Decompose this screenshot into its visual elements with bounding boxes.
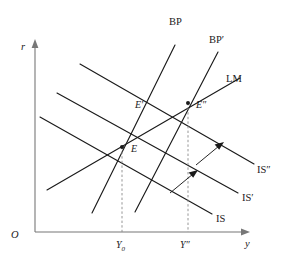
is-lm-bp-diagram: BP BP′ LM IS IS′ IS″ E E′ E″ r y O Y0 Y″ (0, 0, 297, 265)
drop-lines-group (122, 103, 188, 232)
label-is-prime: IS′ (242, 192, 254, 203)
label-r-axis: r (21, 41, 26, 52)
curve-labels-group: BP BP′ LM IS IS′ IS″ (169, 16, 271, 224)
equilibrium-dot-e[interactable] (120, 145, 124, 149)
equilibrium-labels-group: E E′ E″ (130, 99, 207, 154)
label-e-prime: E′ (134, 99, 144, 110)
label-is: IS (216, 213, 225, 224)
y-axis-arrowhead (32, 39, 39, 48)
tick-y0-sub: 0 (122, 245, 126, 253)
label-bp-prime: BP′ (209, 34, 224, 45)
x-tick-labels-group: Y0 Y″ (116, 239, 191, 253)
lm-curve[interactable] (47, 78, 240, 190)
tick-label-y-double-prime: Y″ (180, 239, 191, 250)
tick-y2-prime: ″ (186, 239, 191, 250)
tick-label-y0: Y0 (116, 239, 126, 253)
is-shift-arrow-upper-shaft (196, 146, 219, 165)
curves-group (40, 45, 254, 214)
label-e: E (130, 143, 137, 154)
label-e-double-prime: E″ (195, 99, 207, 110)
x-axis-arrowhead (241, 229, 250, 236)
label-bp: BP (169, 16, 182, 27)
bp-curve[interactable] (92, 45, 175, 213)
is-shift-arrow-lower-shaft (170, 174, 193, 193)
label-y-axis: y (244, 238, 250, 249)
shift-arrows-group (170, 142, 224, 193)
label-origin: O (11, 229, 19, 240)
diagram-canvas: BP BP′ LM IS IS′ IS″ E E′ E″ r y O Y0 Y″ (0, 0, 297, 265)
axes-group (32, 39, 250, 235)
label-lm: LM (226, 73, 242, 84)
label-is-double-prime: IS″ (257, 164, 271, 175)
equilibrium-dot-e-double-prime[interactable] (186, 101, 190, 105)
